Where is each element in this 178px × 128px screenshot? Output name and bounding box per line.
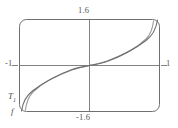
curve-label-function: f (11, 107, 14, 116)
curve-label-taylor-subscript: 1 (13, 97, 16, 103)
taylor-approximation-figure: 1.6 -1.6 -1 1 T1 f (0, 0, 178, 128)
x-min-label: -1 (5, 59, 12, 68)
curve-label-taylor: T1 (8, 92, 16, 103)
y-min-label: -1.6 (76, 113, 90, 122)
y-max-label: 1.6 (78, 6, 89, 15)
x-max-label: 1 (166, 59, 170, 68)
plot-canvas (0, 0, 178, 128)
